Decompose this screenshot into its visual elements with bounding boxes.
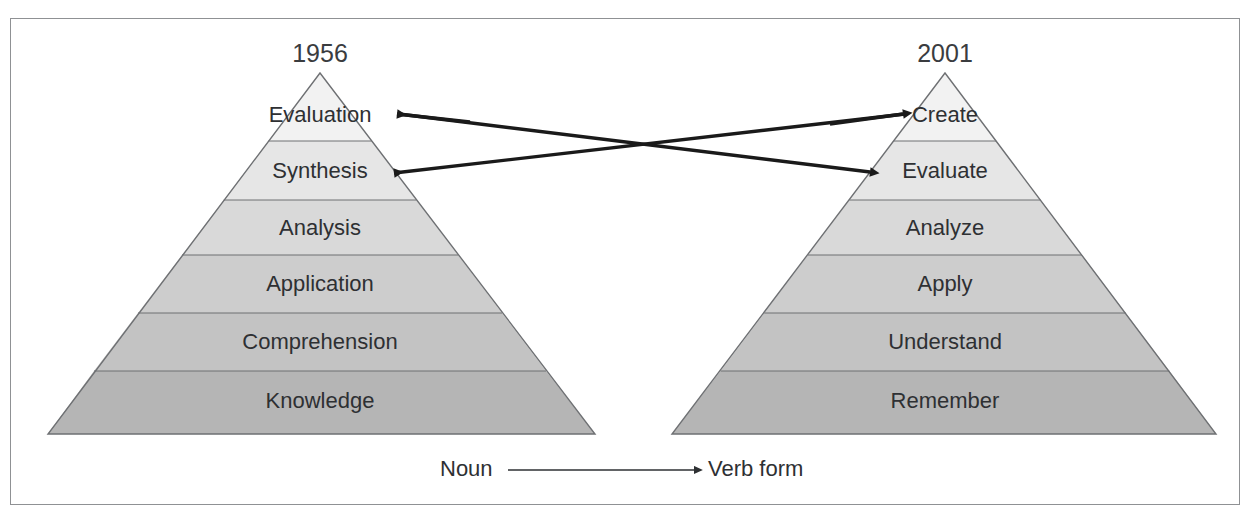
figure-canvas: 1956 Evaluation Synthesis Analysis Appl — [0, 0, 1255, 526]
tier-label-comprehension: Comprehension — [242, 329, 397, 354]
mapping-arrows — [394, 114, 905, 173]
bloom-taxonomy-figure: 1956 Evaluation Synthesis Analysis Appl — [0, 0, 1255, 526]
pyramid-original-1956: 1956 Evaluation Synthesis Analysis Appl — [48, 39, 595, 434]
legend-verb-form-label: Verb form — [708, 456, 803, 481]
tier-label-application: Application — [266, 271, 374, 296]
tier-label-create: Create — [912, 102, 978, 127]
legend-noun-label: Noun — [440, 456, 493, 481]
tier-label-apply: Apply — [917, 271, 972, 296]
tier-label-evaluate: Evaluate — [902, 158, 988, 183]
tier-label-knowledge: Knowledge — [266, 388, 375, 413]
tier-label-understand: Understand — [888, 329, 1002, 354]
arrow-head-at-create — [830, 114, 903, 124]
tier-label-evaluation: Evaluation — [269, 102, 372, 127]
tier-label-synthesis: Synthesis — [272, 158, 367, 183]
arrow-head-at-evaluation — [397, 114, 470, 122]
pyramid-revised-2001: 2001 Create Evaluate Analyze Apply Under… — [672, 39, 1216, 434]
year-label-1956: 1956 — [292, 39, 348, 67]
legend: Noun Verb form — [440, 456, 803, 481]
tier-label-analysis: Analysis — [279, 215, 361, 240]
tier-label-remember: Remember — [891, 388, 1000, 413]
tier-label-analyze: Analyze — [906, 215, 984, 240]
year-label-2001: 2001 — [917, 39, 973, 67]
